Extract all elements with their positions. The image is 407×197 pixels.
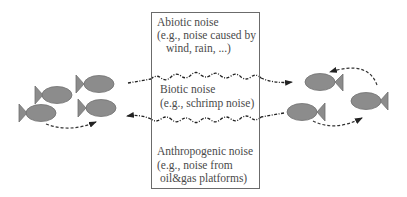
fish-icon <box>76 75 114 93</box>
abiotic-noise-example-line2: wind, rain, ...) <box>166 42 231 55</box>
biotic-noise-example: (e.g., schrimp noise) <box>160 97 254 110</box>
right-fish-school <box>287 74 388 122</box>
biotic-noise-title: Biotic noise <box>160 83 215 96</box>
abiotic-noise-title: Abiotic noise <box>157 16 219 29</box>
fish-icon <box>287 103 325 121</box>
fish-icon <box>78 99 116 117</box>
left-fish-school <box>19 75 116 122</box>
abiotic-noise-example-line1: (e.g., noise caused by <box>157 29 256 42</box>
fish-icon <box>305 74 343 92</box>
fish-icon <box>35 86 72 104</box>
fish-icon <box>351 92 388 110</box>
anthropogenic-noise-example-line2: oil&gas platforms) <box>160 172 247 185</box>
anthropogenic-noise-example-line1: (e.g., noise from <box>157 159 233 172</box>
anthropogenic-noise-title: Anthropogenic noise <box>157 145 253 158</box>
fish-icon <box>19 104 56 122</box>
swim-arrow-right-school-bottom <box>313 118 362 126</box>
swim-arrow-left-school <box>46 122 96 128</box>
